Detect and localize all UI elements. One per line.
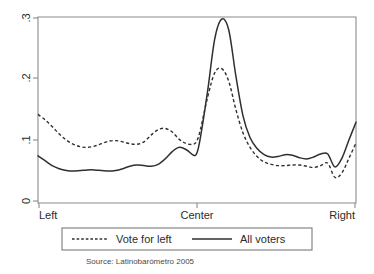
y-tick-label-2: .2 xyxy=(20,73,32,82)
x-tick-label-center: Center xyxy=(180,209,213,221)
y-tick-label-3: .3 xyxy=(20,13,32,22)
legend-label-all-voters: All voters xyxy=(240,233,286,245)
source-note: Source: Latinobarómetro 2005 xyxy=(86,257,195,266)
x-tick-label-left: Left xyxy=(39,209,57,221)
x-tick-label-right: Right xyxy=(329,209,355,221)
legend-label-vote-for-left: Vote for left xyxy=(116,233,172,245)
density-chart-figure: 0 .1 .2 .3 Left Center Right Vote for le… xyxy=(0,0,374,274)
y-tick-label-1: .1 xyxy=(20,135,32,144)
chart-legend: Vote for left All voters xyxy=(62,228,312,250)
y-tick-label-0: 0 xyxy=(20,198,32,204)
